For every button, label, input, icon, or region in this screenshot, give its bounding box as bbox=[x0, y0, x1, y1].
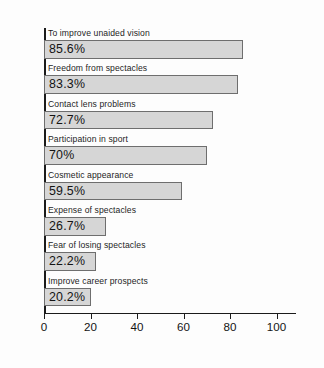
bar-value-label: 20.2% bbox=[49, 289, 85, 306]
bar-category-label: Contact lens problems bbox=[48, 99, 136, 110]
value-axis-tick bbox=[44, 313, 45, 319]
value-axis-tick-label: 20 bbox=[84, 320, 97, 333]
bar-category-label: Improve career prospects bbox=[48, 276, 148, 287]
value-axis-tick-label: 40 bbox=[131, 320, 144, 333]
bar-group: Fear of losing spectacles22.2% bbox=[44, 240, 296, 275]
bar-value-label: 26.7% bbox=[49, 218, 85, 235]
bar-group: Freedom from spectacles83.3% bbox=[44, 63, 296, 98]
value-axis-tick bbox=[184, 313, 185, 319]
bar-group: Contact lens problems72.7% bbox=[44, 99, 296, 134]
value-axis-tick-label: 0 bbox=[41, 320, 47, 333]
bar-category-label: Cosmetic appearance bbox=[48, 170, 134, 181]
value-axis-tick bbox=[230, 313, 231, 319]
value-axis-tick-label: 80 bbox=[224, 320, 237, 333]
bar-group: To improve unaided vision85.6% bbox=[44, 28, 296, 63]
bar-value-label: 85.6% bbox=[49, 41, 85, 58]
value-axis-tick bbox=[277, 313, 278, 319]
bar-category-label: Expense of spectacles bbox=[48, 205, 136, 216]
bar-group: Improve career prospects20.2% bbox=[44, 276, 296, 311]
bar-group: Cosmetic appearance59.5% bbox=[44, 170, 296, 205]
bar-chart-figure: To improve unaided vision85.6%Freedom fr… bbox=[0, 0, 324, 368]
bar-value-label: 22.2% bbox=[49, 253, 85, 270]
bar-category-label: Fear of losing spectacles bbox=[48, 240, 146, 251]
bar-value-label: 59.5% bbox=[49, 183, 85, 200]
bar-value-label: 72.7% bbox=[49, 112, 85, 129]
value-axis-tick-label: 100 bbox=[267, 320, 286, 333]
value-axis-tick bbox=[137, 313, 138, 319]
value-axis-tick-label: 60 bbox=[177, 320, 190, 333]
bar-category-label: Participation in sport bbox=[48, 134, 128, 145]
bar-group: Participation in sport70% bbox=[44, 134, 296, 169]
bar-category-label: To improve unaided vision bbox=[48, 28, 150, 39]
value-axis-tick bbox=[91, 313, 92, 319]
bar-value-label: 70% bbox=[49, 147, 74, 164]
bar-value-label: 83.3% bbox=[49, 76, 85, 93]
bar-category-label: Freedom from spectacles bbox=[48, 63, 147, 74]
plot-area: To improve unaided vision85.6%Freedom fr… bbox=[44, 28, 296, 313]
bar-group: Expense of spectacles26.7% bbox=[44, 205, 296, 240]
